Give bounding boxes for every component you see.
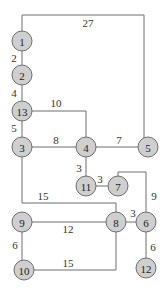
node-label: 9 <box>19 217 25 229</box>
node-13: 13 <box>12 101 32 121</box>
edge-weight-label: 3 <box>76 162 82 174</box>
node-3: 3 <box>12 137 32 157</box>
edge-1-5 <box>22 15 144 147</box>
edge-weight-label: 3 <box>130 207 136 219</box>
edge-weight-label: 6 <box>150 241 156 253</box>
node-label: 8 <box>113 217 119 229</box>
node-1: 1 <box>12 31 32 51</box>
node-label: 2 <box>19 70 25 82</box>
node-2: 2 <box>12 65 32 85</box>
edge-weight-label: 6 <box>12 239 18 251</box>
edge-weight-label: 8 <box>53 134 59 146</box>
edge-weight-label: 27 <box>83 17 95 29</box>
node-label: 12 <box>141 263 152 275</box>
node-label: 1 <box>19 36 25 48</box>
node-label: 6 <box>143 217 149 229</box>
edge-weight-label: 12 <box>63 223 74 235</box>
node-label: 13 <box>17 106 29 118</box>
edge-weight-label: 10 <box>51 97 63 109</box>
node-6: 6 <box>136 212 156 232</box>
edge-weight-label: 9 <box>151 190 157 202</box>
node-10: 10 <box>14 260 34 280</box>
graph-diagram: 272410587339153126156 12133451179861012 <box>0 0 165 297</box>
node-7: 7 <box>108 176 128 196</box>
node-label: 11 <box>81 181 92 193</box>
node-5: 5 <box>138 137 158 157</box>
node-8: 8 <box>106 212 126 232</box>
edge-weight-label: 3 <box>97 173 103 185</box>
node-label: 4 <box>83 142 89 154</box>
edge-weight-label: 15 <box>38 190 50 202</box>
node-label: 3 <box>19 142 25 154</box>
node-label: 10 <box>19 265 31 277</box>
node-label: 5 <box>145 142 151 154</box>
edge-weight-label: 4 <box>11 87 17 99</box>
nodes-layer: 12133451179861012 <box>12 31 158 280</box>
edge-weight-label: 15 <box>63 257 75 269</box>
node-11: 11 <box>76 176 96 196</box>
edge-weight-label: 2 <box>11 52 17 64</box>
edge-weight-label: 7 <box>116 134 122 146</box>
node-4: 4 <box>76 137 96 157</box>
node-label: 7 <box>115 181 121 193</box>
node-9: 9 <box>12 212 32 232</box>
edge-weight-label: 5 <box>11 122 17 134</box>
node-12: 12 <box>136 258 156 278</box>
